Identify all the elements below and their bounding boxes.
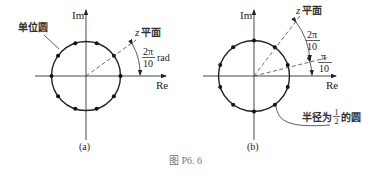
angle-arc-pi-b xyxy=(310,62,312,75)
sample-point xyxy=(50,74,54,78)
angle1-denominator-b: 10 xyxy=(307,41,317,52)
sample-point xyxy=(286,63,290,67)
label-suffix-b: 的圆 xyxy=(341,111,361,123)
unit-circle-leader xyxy=(44,35,59,49)
im-label-a: Im xyxy=(72,9,85,21)
sample-point xyxy=(252,39,256,43)
angle2-denominator-b: 10 xyxy=(319,63,329,74)
sample-point xyxy=(95,41,99,45)
figure-p6-6: Im Re z 平面 2π 10 rad 单位圆 (a) Im Re xyxy=(0,0,383,175)
sample-point xyxy=(252,110,256,114)
sample-point xyxy=(73,107,77,111)
label-frac-den-b: 2 xyxy=(335,117,339,126)
angle-unit-a: rad xyxy=(157,52,170,63)
z-plane-label-b: z xyxy=(295,4,301,16)
sample-point xyxy=(286,85,290,89)
angle-denominator-a: 10 xyxy=(143,58,153,69)
angle2-numerator-b: π xyxy=(321,51,326,62)
label-frac-num-b: 1 xyxy=(335,108,339,117)
panel-b-label: (b) xyxy=(247,141,259,153)
figure-caption: 图 P6. 6 xyxy=(169,155,202,166)
sample-point xyxy=(95,107,99,111)
sample-point xyxy=(56,94,60,98)
unit-circle-label: 单位圆 xyxy=(18,21,48,33)
sample-point xyxy=(231,103,235,107)
panel-a: Im Re z 平面 2π 10 rad 单位圆 (a) xyxy=(18,9,170,153)
panel-a-label: (a) xyxy=(79,141,90,153)
plane-text-a: 平面 xyxy=(141,27,161,38)
sample-point xyxy=(56,54,60,58)
ray-2pi-10-a xyxy=(86,40,136,76)
plane-text-b: 平面 xyxy=(302,5,322,16)
panel-b: Im Re z 平面 2π 10 π 10 半径为 1 2 的圆 (b) xyxy=(203,4,361,153)
sample-point xyxy=(119,74,123,78)
label-prefix-b: 半径为 xyxy=(302,111,332,123)
z-plane-label-a: z xyxy=(134,26,140,38)
sample-point xyxy=(73,41,77,45)
angle-arc-a xyxy=(133,45,141,76)
angle1-numerator-b: 2π xyxy=(307,29,317,40)
sample-point xyxy=(112,94,116,98)
ray-2pi-10-b xyxy=(254,16,300,76)
angle-numerator-a: 2π xyxy=(143,46,153,57)
im-label-b: Im xyxy=(240,9,253,21)
sample-point xyxy=(218,63,222,67)
sample-point xyxy=(218,85,222,89)
re-label-b: Re xyxy=(326,79,338,91)
sample-point xyxy=(231,45,235,49)
re-label-a: Re xyxy=(156,79,168,91)
